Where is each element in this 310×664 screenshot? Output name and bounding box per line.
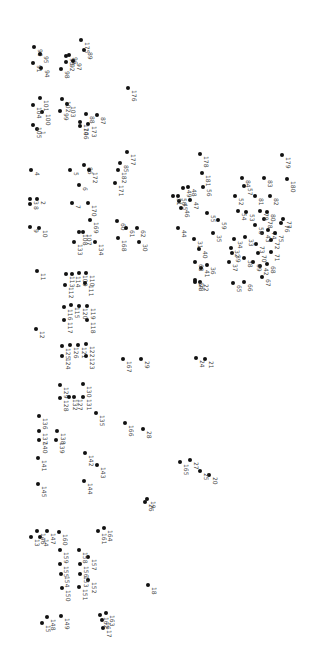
puzzle-dot [29,535,33,539]
dot-number-label: 119 [90,308,96,319]
dot-number-label: 37 [232,264,238,272]
puzzle-dot [281,217,285,221]
puzzle-dot [60,344,64,348]
puzzle-dot [45,615,49,619]
dot-number-label: 182 [121,172,127,183]
puzzle-dot [193,278,197,282]
dot-number-label: 159 [63,552,69,563]
puzzle-dot [59,614,63,618]
dot-number-label: 136 [42,418,48,429]
puzzle-dot [70,272,74,276]
dot-number-label: 26 [148,504,154,512]
dot-number-label: 173 [91,126,97,137]
puzzle-dot [83,451,87,455]
dot-number-label: 152 [91,582,97,593]
dot-number-label: 139 [59,442,65,453]
puzzle-dot [28,202,32,206]
dot-number-label: 51 [176,198,182,206]
dot-number-label: 98 [64,71,70,79]
puzzle-dot [253,194,257,198]
dot-number-label: 11 [40,273,46,281]
dot-number-label: 147 [50,533,56,544]
puzzle-dot [77,548,81,552]
dot-number-label: 165 [183,464,189,475]
dot-number-label: 169 [93,222,99,233]
dot-number-label: 153 [83,576,89,587]
dot-number-label: 28 [146,431,152,439]
puzzle-dot [45,529,49,533]
dot-number-label: 99 [63,113,69,121]
puzzle-dot [227,260,231,264]
dot-number-label: 21 [208,361,214,369]
dot-number-label: 69 [256,264,262,272]
dot-number-label: 35 [216,235,222,243]
dot-number-label: 157 [91,559,97,570]
dot-puzzle-canvas: 1234567891011121314151617181920212223242… [0,0,310,664]
dot-number-label: 82 [273,198,279,206]
puzzle-dot [64,272,68,276]
dot-number-label: 52 [238,198,244,206]
puzzle-dot [253,223,257,227]
dot-number-label: 135 [99,415,105,426]
puzzle-dot [71,59,75,63]
dot-number-label: 63 [198,264,204,272]
puzzle-dot [58,109,62,113]
puzzle-dot [116,236,120,240]
puzzle-dot [60,354,64,358]
dot-number-label: 118 [90,322,96,333]
dot-number-label: 25 [203,473,209,481]
dot-number-label: 54 [241,213,247,221]
dot-number-label: 158 [82,552,88,563]
puzzle-dot [31,123,35,127]
puzzle-dot [37,414,41,418]
dot-number-label: 81 [258,198,264,206]
puzzle-dot [254,242,258,246]
dot-number-label: 27 [193,462,199,470]
puzzle-dot [171,194,175,198]
dot-number-label: 56 [206,189,212,197]
puzzle-dot [79,38,83,42]
dot-number-label: 67 [265,279,271,287]
puzzle-dot [198,152,202,156]
puzzle-dot [64,60,68,64]
puzzle-dot [216,218,220,222]
puzzle-dot [82,163,86,167]
dot-number-label: 142 [88,455,94,466]
dot-number-label: 163 [109,615,115,626]
dot-number-label: 105 [36,127,42,138]
puzzle-dot [176,226,180,230]
puzzle-dot [200,171,204,175]
puzzle-dot [88,218,92,222]
dot-number-label: 84 [245,180,251,188]
dot-number-label: 46 [184,210,190,218]
puzzle-dot [231,281,235,285]
dot-number-label: 64 [198,282,204,290]
puzzle-dot [268,194,272,198]
dot-number-label: 30 [142,244,148,252]
puzzle-dot [37,438,41,442]
puzzle-dot [67,53,71,57]
puzzle-dot [28,225,32,229]
dot-number-label: 83 [267,180,273,188]
dot-number-label: 124 [65,358,71,369]
dot-number-label: 132 [72,399,78,410]
puzzle-dot [86,201,90,205]
puzzle-dot [67,395,71,399]
puzzle-dot [37,226,41,230]
dot-number-label: 141 [41,460,47,471]
dot-number-label: 128 [63,400,69,411]
puzzle-dot [260,275,264,279]
puzzle-dot [70,201,74,205]
puzzle-dot [125,150,129,154]
dot-number-label: 146 [40,533,46,544]
puzzle-dot [116,168,120,172]
dot-number-label: 101 [43,100,49,111]
dot-number-label: 116 [67,309,73,320]
puzzle-dot [94,411,98,415]
dot-number-label: 130 [86,386,92,397]
puzzle-dot [68,343,72,347]
puzzle-dot [143,500,147,504]
puzzle-dot [81,382,85,386]
puzzle-dot [194,356,198,360]
puzzle-dot [82,479,86,483]
